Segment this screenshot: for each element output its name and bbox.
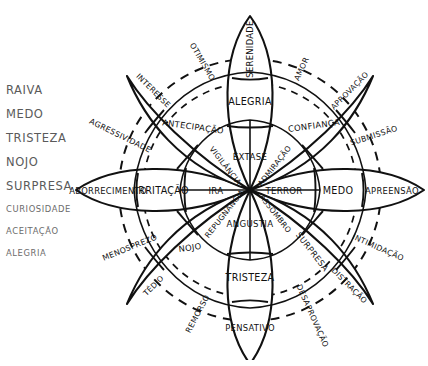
label-core-angustia: ANGÚSTIA xyxy=(227,218,274,229)
label-outer-aborrecimento: ABORRECIMENTO xyxy=(69,186,147,196)
label-outer-pensativo: PENSATIVO xyxy=(225,323,275,333)
plutchik-wheel-diagram: ÊXTASE ALEGRIA SERENIDADE TERROR MEDO AP… xyxy=(62,14,428,360)
label-dyad-otimismo: OTIMISMO xyxy=(188,41,217,82)
emotion-wheel-page: RAIVA MEDO TRISTEZA NOJO SURPRESA CURIOS… xyxy=(0,0,428,366)
label-dyad-agressividade: AGRESSIVIDADE xyxy=(88,117,153,155)
label-dyad-remorso: REMORSO xyxy=(184,293,212,334)
label-core-terror: TERROR xyxy=(264,186,302,196)
label-mid-nojo: NOJO xyxy=(178,241,202,254)
label-dyad-amor: AMOR xyxy=(292,55,311,82)
label-core-ira: IRA xyxy=(209,186,224,196)
label-mid-alegria: ALEGRIA xyxy=(228,96,272,107)
label-dyad-menosprezo: MENOSPREZO xyxy=(101,233,158,263)
label-outer-apreensao: APREENSÃO xyxy=(365,186,419,196)
label-core-extase: ÊXTASE xyxy=(233,151,267,162)
label-dyad-submissao: SUBMISSÃO xyxy=(349,123,399,148)
label-dyad-desaprovacao: DESAPROVAÇÃO xyxy=(294,283,331,349)
label-dyad-intimidacao: INTIMIDAÇÃO xyxy=(351,231,406,263)
label-mid-medo: MEDO xyxy=(323,185,354,196)
label-outer-serenidade: SERENIDADE xyxy=(245,20,255,77)
label-mid-tristeza: TRISTEZA xyxy=(225,272,275,283)
